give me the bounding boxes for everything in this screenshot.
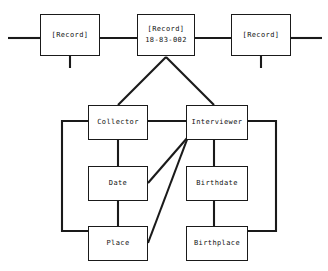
place-label: Place <box>106 238 129 249</box>
record-box-center[interactable]: [Record] 18-83-002 <box>137 14 195 56</box>
fork-to-collector <box>118 57 166 105</box>
fork-to-interviewer <box>166 57 214 105</box>
interviewer-label: Interviewer <box>192 117 243 128</box>
record-center-label: [Record] <box>148 24 185 35</box>
bracket-right <box>248 121 276 231</box>
record-left-label: [Record] <box>52 30 89 41</box>
diagram-canvas: [Record] [Record] 18-83-002 [Record] Col… <box>0 0 328 271</box>
collector-label: Collector <box>97 117 139 128</box>
record-center-identifier: 18-83-002 <box>145 35 187 46</box>
diagonal-place-interviewer <box>148 137 188 243</box>
birthplace-label: Birthplace <box>194 238 240 249</box>
bracket-left <box>62 121 88 231</box>
attribute-box-birthdate[interactable]: Birthdate <box>186 166 248 201</box>
record-box-left[interactable]: [Record] <box>40 14 100 56</box>
diagonal-date-interviewer <box>148 137 188 183</box>
record-right-label: [Record] <box>243 30 280 41</box>
attribute-box-date[interactable]: Date <box>88 166 148 201</box>
date-label: Date <box>109 178 127 189</box>
attribute-box-interviewer[interactable]: Interviewer <box>186 105 248 140</box>
birthdate-label: Birthdate <box>196 178 238 189</box>
record-box-right[interactable]: [Record] <box>231 14 291 56</box>
attribute-box-place[interactable]: Place <box>88 226 148 261</box>
attribute-box-collector[interactable]: Collector <box>88 105 148 140</box>
attribute-box-birthplace[interactable]: Birthplace <box>186 226 248 261</box>
